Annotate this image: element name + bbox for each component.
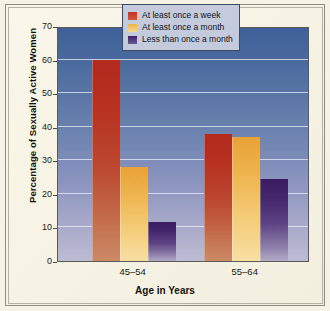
bar-1-0 <box>120 167 148 261</box>
bar-0-0 <box>92 60 120 261</box>
legend-item[interactable]: At least once a week <box>128 10 233 21</box>
x-axis-label: Age in Years <box>0 285 330 296</box>
y-axis-tick-label: 50 <box>0 89 52 98</box>
legend-item[interactable]: At least once a month <box>128 22 233 33</box>
y-axis-label: Percentage of Sexually Active Women <box>27 16 38 216</box>
legend-item[interactable]: Less than once a month <box>128 34 233 45</box>
y-axis-tick-label: 60 <box>0 56 52 65</box>
legend-swatch-icon <box>128 12 137 20</box>
y-axis-tick-label: 70 <box>0 22 52 31</box>
y-axis-tick-label: 40 <box>0 123 52 132</box>
plot-area <box>57 27 309 262</box>
legend-label: At least once a week <box>142 11 220 20</box>
bar-1-1 <box>232 137 260 261</box>
y-axis-tick-label: 10 <box>0 223 52 232</box>
y-axis-tick-mark <box>53 262 57 263</box>
y-axis-tick-label: 0 <box>0 257 52 266</box>
bar-0-1 <box>204 134 232 261</box>
x-axis-tick-label: 55–64 <box>200 266 290 277</box>
legend-label: Less than once a month <box>142 35 233 44</box>
bar-2-0 <box>148 222 176 261</box>
legend-label: At least once a month <box>142 23 224 32</box>
chart-legend: At least once a weekAt least once a mont… <box>122 4 240 51</box>
chart-figure: Percentage of Sexually Active Women 0102… <box>0 0 330 311</box>
x-axis-tick-label: 45–54 <box>88 266 178 277</box>
legend-swatch-icon <box>128 36 137 44</box>
y-axis-tick-label: 30 <box>0 156 52 165</box>
bar-2-1 <box>260 179 288 261</box>
legend-swatch-icon <box>128 24 137 32</box>
y-axis-tick-label: 20 <box>0 190 52 199</box>
